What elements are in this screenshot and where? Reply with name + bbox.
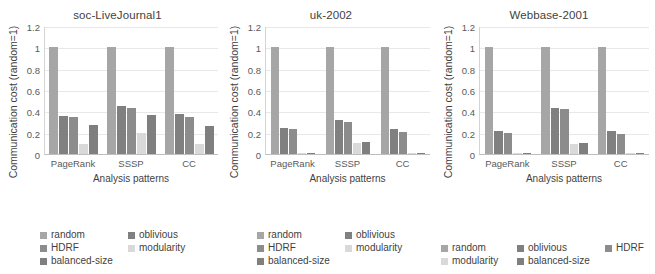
bar-group — [536, 27, 592, 154]
legend-label: modularity — [452, 256, 498, 266]
y-tick-label: 0.8 — [462, 64, 475, 75]
bar-random — [541, 47, 550, 154]
bar-HDRF — [617, 134, 626, 154]
bar-HDRF — [185, 117, 194, 154]
bar-balanced-size — [307, 153, 315, 154]
x-tick-label: PageRank — [265, 158, 320, 169]
legend-swatch-icon — [345, 245, 352, 252]
bar-modularity — [626, 153, 635, 154]
chart-panel-0: soc-LiveJournal1Communication cost (rand… — [0, 0, 225, 274]
chart-title: soc-LiveJournal1 — [0, 0, 225, 21]
x-tick-label: SSSP — [320, 158, 375, 169]
legend-swatch-icon — [40, 245, 47, 252]
bar-balanced-size — [523, 153, 532, 154]
bar-HDRF — [289, 129, 297, 154]
bar-group — [593, 27, 649, 154]
bar-group — [480, 27, 536, 154]
plot-area: Communication cost (random=1)00.20.40.60… — [6, 27, 218, 177]
y-axis-label: Communication cost (random=1) — [440, 27, 456, 177]
legend-item-HDRF[interactable]: HDRF — [605, 243, 655, 253]
legend-item-balanced-size[interactable]: balanced-size — [257, 256, 345, 266]
legend-label: modularity — [356, 243, 402, 253]
y-tick-label: 0.2 — [248, 128, 261, 139]
bar-oblivious — [117, 106, 126, 154]
bar-random — [485, 47, 494, 154]
bar-group — [321, 27, 376, 154]
y-axis-label: Communication cost (random=1) — [5, 27, 21, 177]
y-tick-label: 1 — [470, 43, 475, 54]
legend-grid: randomobliviousHDRFmodularitybalanced-si… — [40, 230, 220, 266]
legend-item-HDRF[interactable]: HDRF — [257, 243, 345, 253]
y-tick-label: 1 — [256, 43, 261, 54]
bar-balanced-size — [205, 126, 214, 154]
legend-label: random — [268, 230, 302, 240]
legend-swatch-icon — [517, 245, 524, 252]
x-tick-label: CC — [592, 158, 649, 169]
bar-modularity — [570, 144, 579, 154]
y-axis-label: Communication cost (random=1) — [226, 27, 242, 177]
legend-item-balanced-size[interactable]: balanced-size — [517, 256, 605, 266]
legend-swatch-icon — [345, 232, 352, 239]
legend-item-modularity[interactable]: modularity — [128, 243, 220, 253]
bar-modularity — [298, 153, 306, 154]
y-tick-label: 0.8 — [27, 64, 40, 75]
bar-random — [271, 47, 279, 154]
legend-swatch-icon — [40, 232, 47, 239]
chart-legend: randomobliviousHDRFmodularitybalanced-si… — [257, 230, 437, 266]
bar-random — [107, 47, 116, 154]
y-axis-label-text: Communication cost (random=1) — [7, 26, 19, 179]
bar-balanced-size — [147, 115, 156, 154]
legend-item-random[interactable]: random — [441, 243, 517, 253]
legend-label: balanced-size — [268, 256, 330, 266]
chart-figure: soc-LiveJournal1Communication cost (rand… — [0, 0, 655, 274]
chart-title: Webbase-2001 — [435, 0, 655, 21]
legend-swatch-icon — [257, 232, 264, 239]
y-tick-label: 0 — [470, 150, 475, 161]
legend-label: oblivious — [139, 230, 178, 240]
y-tick-label: 0.4 — [27, 107, 40, 118]
y-tick-label: 0 — [256, 150, 261, 161]
y-tick-label: 0.6 — [248, 86, 261, 97]
legend-label: random — [452, 243, 486, 253]
legend-item-oblivious[interactable]: oblivious — [345, 230, 437, 240]
legend-item-modularity[interactable]: modularity — [441, 256, 517, 266]
chart-panel-2: Webbase-2001Communication cost (random=1… — [435, 0, 655, 274]
y-tick-label: 0.6 — [462, 86, 475, 97]
bar-oblivious — [335, 120, 343, 154]
bar-HDRF — [399, 132, 407, 154]
legend-item-oblivious[interactable]: oblivious — [128, 230, 220, 240]
legend-item-balanced-size[interactable]: balanced-size — [40, 256, 128, 266]
legend-grid: randomobliviousHDRFmodularitybalanced-si… — [441, 243, 655, 266]
legend-item-random[interactable]: random — [257, 230, 345, 240]
bar-random — [381, 47, 389, 154]
bar-HDRF — [127, 108, 136, 154]
y-tick-label: 0.2 — [27, 128, 40, 139]
bar-balanced-size — [89, 125, 98, 154]
legend-label: HDRF — [616, 243, 644, 253]
bar-group — [160, 27, 218, 154]
bar-groups — [45, 27, 218, 154]
y-axis-label-text: Communication cost (random=1) — [228, 26, 240, 179]
x-axis-label: Analysis patterns — [479, 173, 649, 184]
y-tick-label: 0.2 — [462, 128, 475, 139]
x-axis-label: Analysis patterns — [265, 173, 430, 184]
y-tick-label: 1.2 — [27, 22, 40, 33]
legend-item-modularity[interactable]: modularity — [345, 243, 437, 253]
bar-group — [103, 27, 161, 154]
legend-item-oblivious[interactable]: oblivious — [517, 243, 605, 253]
bar-oblivious — [494, 131, 503, 154]
bar-HDRF — [344, 122, 352, 154]
y-axis-ticks: 00.20.40.60.811.2 — [241, 27, 263, 155]
legend-swatch-icon — [257, 258, 264, 265]
y-tick-label: 1 — [35, 43, 40, 54]
bar-group — [45, 27, 103, 154]
legend-swatch-icon — [128, 245, 135, 252]
legend-item-random[interactable]: random — [40, 230, 128, 240]
bar-random — [49, 47, 58, 154]
plot-axes — [479, 27, 649, 155]
legend-item-HDRF[interactable]: HDRF — [40, 243, 128, 253]
x-tick-label: PageRank — [44, 158, 102, 169]
bar-random — [326, 47, 334, 154]
bar-oblivious — [280, 128, 288, 154]
y-axis-label-text: Communication cost (random=1) — [442, 26, 454, 179]
